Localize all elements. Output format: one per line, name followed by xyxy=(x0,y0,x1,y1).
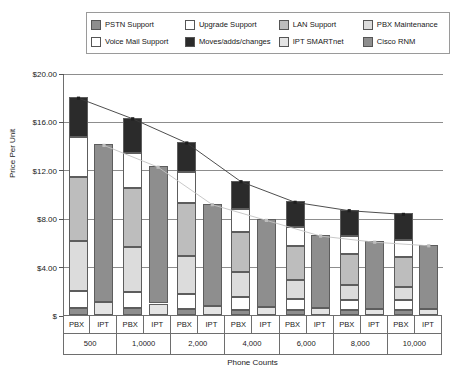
x-axis-member-label: PBX xyxy=(334,316,361,333)
x-axis-member-label: PBX xyxy=(117,316,144,333)
x-axis-group-label: 10,000 xyxy=(388,333,442,354)
y-axis-label: $16.00 xyxy=(33,118,57,127)
legend-item-upgrade-support: Upgrade Support xyxy=(185,20,279,30)
legend-label-upgrade-support: Upgrade Support xyxy=(199,20,257,29)
trendline-marker xyxy=(185,141,188,144)
y-axis-label: $12.00 xyxy=(33,166,57,175)
trendline-marker xyxy=(294,201,297,204)
legend-item-voice-mail-support: Voice Mail Support xyxy=(91,37,185,47)
x-axis-member-label: PBX xyxy=(280,316,307,333)
legend-swatch-voice-mail-support xyxy=(91,37,101,47)
x-axis-member-label: IPT xyxy=(253,316,280,333)
trendline-marker xyxy=(77,97,80,100)
trendline-marker xyxy=(102,144,105,147)
x-axis-group-label: 4,000 xyxy=(225,333,279,354)
trendline-marker xyxy=(402,213,405,216)
x-axis-member-label: IPT xyxy=(307,316,334,333)
legend-label-cisco-rnm: Cisco RNM xyxy=(377,37,415,46)
y-axis-label: $4.00 xyxy=(37,263,57,272)
legend-swatch-upgrade-support xyxy=(185,20,195,30)
trendline-marker xyxy=(319,235,322,238)
x-axis-group-label: 8,000 xyxy=(334,333,388,354)
chart-container: PSTN Support Upgrade Support LAN Support… xyxy=(0,0,457,384)
trendline-marker xyxy=(211,203,214,206)
x-axis-title: Phone Counts xyxy=(63,358,442,367)
x-axis-group-row: 5001,00002,0004,0006,0008,00010,000 xyxy=(63,333,442,355)
legend-item-ipt-smartnet: IPT SMARTnet xyxy=(279,37,363,47)
trendline-marker xyxy=(157,166,160,169)
x-axis-group-label: 2,000 xyxy=(171,333,225,354)
x-axis-group-label: 1,0000 xyxy=(117,333,171,354)
x-axis-group-label: 500 xyxy=(63,333,117,354)
trendline-ipt xyxy=(104,145,429,245)
plot-area: $$4.00$8.00$12.00$16.00$20.00 xyxy=(63,74,442,316)
legend-label-lan-support: LAN Support xyxy=(293,20,336,29)
legend-swatch-lan-support xyxy=(279,20,289,30)
x-axis-member-label: PBX xyxy=(225,316,252,333)
legend-label-pstn-support: PSTN Support xyxy=(105,20,154,29)
y-axis-title: Price Per Unit xyxy=(8,129,17,178)
legend-item-pbx-maintenance: PBX Maintenance xyxy=(363,20,445,30)
y-axis-label: $20.00 xyxy=(33,70,57,79)
x-axis-member-label: PBX xyxy=(63,316,90,333)
trendline-marker xyxy=(265,219,268,222)
trendline-pbx xyxy=(79,98,404,214)
y-axis-label: $ xyxy=(53,312,57,321)
legend-label-voice-mail-support: Voice Mail Support xyxy=(105,37,168,46)
legend-swatch-cisco-rnm xyxy=(363,37,373,47)
trendline-marker xyxy=(373,241,376,244)
x-axis-member-label: IPT xyxy=(415,316,442,333)
legend-swatch-pstn-support xyxy=(91,20,101,30)
legend-swatch-moves-adds-changes xyxy=(185,37,195,47)
chart-legend: PSTN Support Upgrade Support LAN Support… xyxy=(86,12,450,54)
legend-row-1: PSTN Support Upgrade Support LAN Support… xyxy=(91,16,445,33)
legend-item-pstn-support: PSTN Support xyxy=(91,20,185,30)
x-axis-member-label: IPT xyxy=(198,316,225,333)
legend-item-lan-support: LAN Support xyxy=(279,20,363,30)
legend-label-ipt-smartnet: IPT SMARTnet xyxy=(293,37,344,46)
trendline-marker xyxy=(131,117,134,120)
x-axis-member-label: IPT xyxy=(90,316,117,333)
x-axis-member-row: PBXIPTPBXIPTPBXIPTPBXIPTPBXIPTPBXIPTPBXI… xyxy=(63,316,442,334)
trendline-marker xyxy=(239,180,242,183)
trendline-marker xyxy=(348,209,351,212)
x-axis-group-label: 6,000 xyxy=(280,333,334,354)
trendline-marker xyxy=(427,244,430,247)
legend-item-moves-adds-changes: Moves/adds/changes xyxy=(185,37,279,47)
legend-label-pbx-maintenance: PBX Maintenance xyxy=(377,20,438,29)
x-axis: PBXIPTPBXIPTPBXIPTPBXIPTPBXIPTPBXIPTPBXI… xyxy=(63,316,442,356)
legend-swatch-pbx-maintenance xyxy=(363,20,373,30)
x-axis-member-label: IPT xyxy=(144,316,171,333)
legend-swatch-ipt-smartnet xyxy=(279,37,289,47)
legend-label-moves-adds-changes: Moves/adds/changes xyxy=(199,37,271,46)
legend-item-cisco-rnm: Cisco RNM xyxy=(363,37,445,47)
legend-row-2: Voice Mail Support Moves/adds/changes IP… xyxy=(91,33,445,50)
y-axis-label: $8.00 xyxy=(37,215,57,224)
x-axis-member-label: IPT xyxy=(361,316,388,333)
x-axis-member-label: PBX xyxy=(171,316,198,333)
trendline-layer xyxy=(64,74,443,316)
x-axis-member-label: PBX xyxy=(388,316,415,333)
